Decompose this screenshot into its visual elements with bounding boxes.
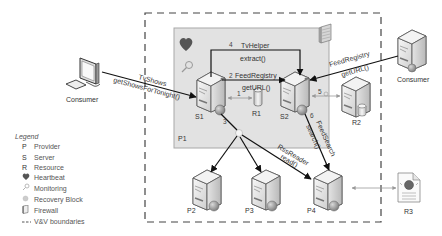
recovery-dot-icon [22,195,32,205]
legend-item-resource: R Resource [15,163,85,173]
p4-label: P4 [307,207,316,214]
legend-item-firewall: Firewall [15,205,85,217]
consumer-right: Consumer [397,30,430,83]
provider-p1-label: P1 [178,135,187,142]
provider-p2: P2 [187,170,221,214]
svg-text:getURL(): getURL() [340,63,370,79]
web-document-icon [398,173,420,202]
consumer-left-label: Consumer [66,96,99,103]
recovery-block-node [236,130,243,137]
s1-label: S1 [195,113,204,120]
provider-p4: P4 [307,170,342,214]
p2-label: P2 [187,207,196,214]
legend-item-provider: P Provider [15,142,85,152]
firewall-icon [22,205,32,217]
svg-text:4: 4 [229,41,233,48]
svg-text:5: 5 [318,88,322,95]
legend-item-server: S Server [15,153,85,163]
legend: Legend P Provider S Server R Resource He… [15,132,85,228]
svg-text:1: 1 [237,90,241,97]
s2-label: S2 [280,113,289,120]
svg-text:3: 3 [223,118,227,125]
legend-item-vv-boundaries: V&V boundaries [15,217,85,227]
magnifier-icon [22,183,32,194]
provider-p3: P3 [245,170,280,214]
svg-text:TvHelper: TvHelper [241,42,270,50]
resource-r2: R2 [342,77,370,126]
legend-symbol-r: R [22,163,32,173]
r3-label: R3 [404,208,413,215]
legend-title: Legend [15,132,85,142]
desktop-computer-icon [66,58,100,89]
resource-r3: R3 [398,173,420,215]
r1-label: R1 [252,110,261,117]
recovery-ball-icon [297,105,307,115]
heart-icon [22,173,32,183]
p3-label: P3 [245,207,254,214]
svg-text:extract(): extract() [240,55,266,63]
svg-text:getURL(): getURL() [242,84,270,92]
legend-item-monitoring: Monitoring [15,183,85,194]
legend-item-heartbeat: Heartbeat [15,173,85,183]
firewall-icon [319,24,331,43]
consumer-right-label: Consumer [397,76,430,83]
svg-text:6: 6 [310,112,314,119]
svg-text:2: 2 [229,72,233,79]
recovery-ball-icon [215,105,225,115]
r2-label: R2 [352,119,361,126]
dashed-line-icon [22,217,32,227]
legend-item-recovery-block: Recovery Block [15,195,85,205]
legend-symbol-s: S [22,153,32,163]
consumer-left: Consumer [66,58,100,103]
svg-text:FeedRegistry: FeedRegistry [235,72,277,80]
legend-symbol-p: P [22,142,32,152]
